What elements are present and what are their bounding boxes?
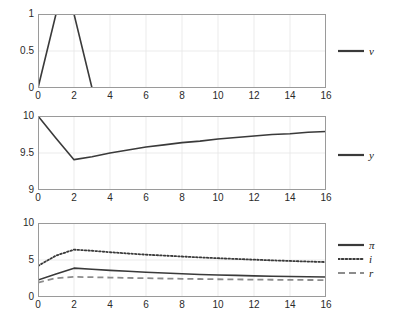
y-tick-label: 0.5 (20, 46, 34, 56)
x-tick-label: 10 (212, 300, 223, 310)
legend-label-r: r (369, 267, 373, 279)
y-tick-label: 10 (23, 218, 34, 228)
legend-top: v (338, 44, 374, 58)
x-tick-label: 14 (284, 300, 295, 310)
y-tick-label: 10 (23, 111, 34, 121)
x-tick-label: 0 (35, 193, 41, 203)
x-tick-label: 10 (212, 193, 223, 203)
legend-item-i[interactable]: i (338, 252, 375, 266)
legend-swatch-i (338, 254, 364, 264)
x-tick-label: 4 (107, 91, 113, 101)
x-tick-label: 0 (35, 300, 41, 310)
legend-swatch-pi (338, 240, 364, 250)
x-tick-label: 8 (179, 193, 185, 203)
legend-item-r[interactable]: r (338, 266, 375, 280)
y-tick-label: 1 (28, 9, 34, 19)
x-tick-label: 12 (248, 193, 259, 203)
x-tick-label: 12 (248, 300, 259, 310)
axes-top: 00.51 0246810121416 (38, 14, 326, 88)
legend-middle: y (338, 148, 374, 162)
legend-label-i: i (369, 253, 372, 265)
x-tick-label: 8 (179, 300, 185, 310)
panel-rates: 0510 0246810121416 (0, 213, 394, 332)
x-tick-label: 2 (71, 300, 77, 310)
x-tick-label: 8 (179, 91, 185, 101)
x-tick-label: 12 (248, 91, 259, 101)
x-tick-label: 4 (107, 300, 113, 310)
x-tick-label: 6 (143, 91, 149, 101)
x-tick-label: 2 (71, 193, 77, 203)
x-tick-label: 4 (107, 193, 113, 203)
x-tick-label: 2 (71, 91, 77, 101)
legend-item-v[interactable]: v (338, 44, 374, 58)
plot-box-bottom (38, 223, 326, 297)
impulse-response-figure: 00.51 0246810121416 99.510 0246810121416… (0, 0, 394, 332)
y-tick-label: 5 (28, 255, 34, 265)
y-tick-label: 9.5 (20, 148, 34, 158)
legend-label-pi: π (369, 239, 375, 251)
panel-shock-v: 00.51 0246810121416 (0, 0, 394, 108)
x-tick-label: 14 (284, 91, 295, 101)
x-tick-label: 10 (212, 91, 223, 101)
legend-bottom: πir (338, 238, 375, 280)
legend-swatch-v (338, 46, 364, 56)
x-tick-label: 0 (35, 91, 41, 101)
plot-box-top (38, 14, 326, 88)
y-tick-label: 0 (28, 83, 34, 93)
x-tick-label: 16 (320, 193, 331, 203)
y-tick-label: 9 (28, 185, 34, 195)
axes-bottom: 0510 0246810121416 (38, 223, 326, 297)
x-tick-label: 14 (284, 193, 295, 203)
legend-label-v: v (369, 45, 374, 57)
plot-box-middle (38, 116, 326, 190)
legend-swatch-r (338, 268, 364, 278)
legend-item-pi[interactable]: π (338, 238, 375, 252)
axes-middle: 99.510 0246810121416 (38, 116, 326, 190)
panel-output-y: 99.510 0246810121416 (0, 108, 394, 213)
x-tick-label: 6 (143, 300, 149, 310)
x-tick-label: 16 (320, 91, 331, 101)
y-tick-label: 0 (28, 292, 34, 302)
legend-label-y: y (369, 149, 374, 161)
legend-item-y[interactable]: y (338, 148, 374, 162)
x-tick-label: 16 (320, 300, 331, 310)
x-tick-label: 6 (143, 193, 149, 203)
legend-swatch-y (338, 150, 364, 160)
